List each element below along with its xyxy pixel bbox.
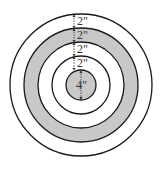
inner-ring-width-label: 2" (77, 56, 88, 70)
outer-ring-width-label: 2" (77, 14, 88, 28)
gray-ring-width-label: 2" (77, 28, 88, 42)
bullseye-diameter-label: 4" (76, 78, 87, 92)
target-diagram: 2" 2" 2" 2" 4" (0, 0, 165, 170)
middle-ring-width-label: 2" (77, 42, 88, 56)
